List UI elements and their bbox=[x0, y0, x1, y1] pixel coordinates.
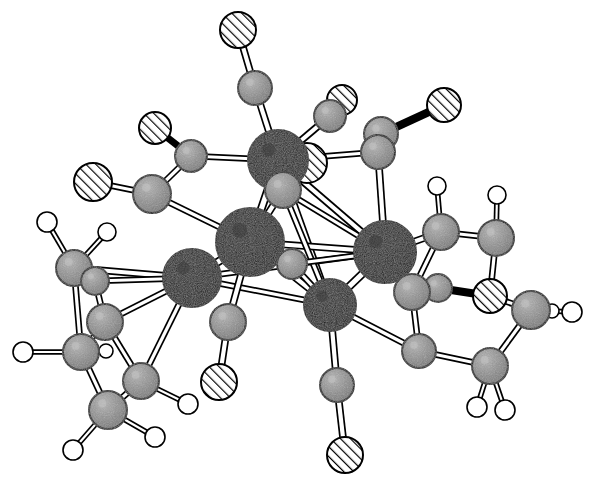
atom-hydrogen bbox=[13, 342, 33, 362]
atom-metal bbox=[163, 249, 221, 307]
atom-hydrogen bbox=[98, 223, 116, 241]
atom-metal bbox=[216, 208, 284, 276]
atom-oxygen bbox=[139, 112, 171, 144]
atom-carbon bbox=[478, 220, 514, 256]
atom-carbon bbox=[361, 135, 395, 169]
atom-metal bbox=[304, 279, 356, 331]
atom-hydrogen bbox=[37, 212, 57, 232]
atom-oxygen bbox=[220, 12, 256, 48]
atom-carbon bbox=[265, 172, 301, 208]
atom-hydrogen bbox=[467, 397, 487, 417]
atom-hydrogen bbox=[145, 427, 165, 447]
atom-carbon bbox=[238, 71, 272, 105]
atom-carbon bbox=[175, 140, 207, 172]
atom-hydrogen bbox=[99, 344, 113, 358]
atom-hydrogen bbox=[178, 394, 198, 414]
atom-carbon bbox=[423, 214, 459, 250]
atom-carbon bbox=[87, 304, 123, 340]
atom-carbon bbox=[133, 175, 171, 213]
atom-hydrogen bbox=[63, 440, 83, 460]
molecular-structure-figure bbox=[0, 0, 605, 490]
atom-oxygen bbox=[473, 279, 507, 313]
atom-carbon bbox=[472, 348, 508, 384]
atom-carbon bbox=[210, 304, 246, 340]
atom-carbon bbox=[81, 267, 109, 295]
atom-carbon bbox=[320, 368, 354, 402]
atom-oxygen bbox=[201, 364, 237, 400]
molecule-canvas bbox=[0, 0, 605, 490]
atom-carbon bbox=[277, 249, 307, 279]
atom-carbon bbox=[63, 334, 99, 370]
atom-hydrogen bbox=[495, 400, 515, 420]
atom-carbon bbox=[402, 334, 436, 368]
atom-hydrogen bbox=[562, 302, 582, 322]
atom-carbon bbox=[512, 291, 550, 329]
atom-hydrogen bbox=[428, 177, 446, 195]
atom-carbon bbox=[394, 274, 430, 310]
atom-carbon bbox=[123, 363, 159, 399]
atom-carbon bbox=[89, 391, 127, 429]
atom-hydrogen bbox=[488, 186, 506, 204]
atom-oxygen bbox=[327, 437, 363, 473]
atom-carbon bbox=[314, 100, 346, 132]
atom-oxygen bbox=[427, 88, 461, 122]
atom-metal bbox=[354, 221, 416, 283]
atom-oxygen bbox=[74, 163, 112, 201]
